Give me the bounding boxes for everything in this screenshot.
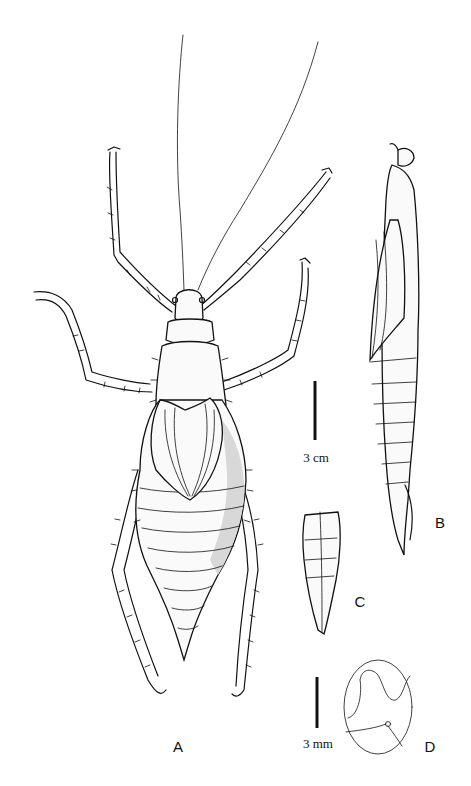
antenna-right [198, 42, 318, 290]
scale-label-3mm: 3 mm [303, 736, 333, 751]
panel-d-egg: D [344, 660, 436, 755]
midleg-left [34, 292, 150, 384]
panel-label-c: C [355, 593, 366, 610]
scale-label-3cm: 3 cm [303, 450, 329, 465]
egg-suture [348, 670, 410, 718]
foreleg-right [200, 172, 326, 306]
body-lateral [382, 165, 419, 555]
panel-label-d: D [425, 738, 436, 755]
prothorax [166, 319, 214, 345]
panel-label-a: A [173, 738, 183, 755]
panel-label-b: B [435, 514, 445, 531]
egg-outline [344, 660, 412, 754]
panel-b-insect-lateral: B [370, 144, 445, 555]
panel-c-terminal-segments: C [303, 512, 366, 634]
mesothorax [156, 342, 226, 406]
antenna-left [177, 35, 184, 290]
midleg-right [222, 262, 302, 382]
head-lateral [398, 148, 414, 166]
scale-bar-3cm: 3 cm [303, 381, 329, 465]
scientific-illustration: A B C [0, 0, 471, 786]
panel-a-insect-dorsal: A [34, 35, 332, 755]
scale-bar-3mm: 3 mm [303, 677, 333, 751]
